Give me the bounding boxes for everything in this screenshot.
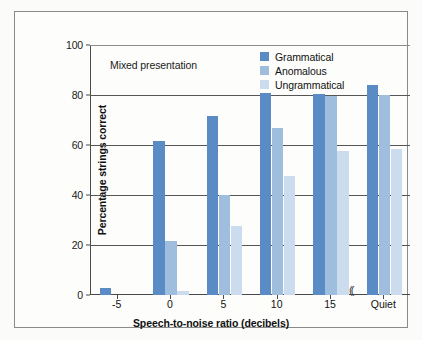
legend-label-ungrammatical: Ungrammatical [275,79,344,91]
legend-item: Ungrammatical [260,78,344,91]
figure-frame: Percentage strings correct Speech-to-noi… [14,11,408,328]
y-tick-label: 60 [72,139,83,151]
legend-label-anomalous: Anomalous [275,65,327,77]
y-tick-label: 80 [72,89,83,101]
y-tick-mark [86,295,90,296]
bar-anomalous-quiet [379,95,391,295]
x-tick-label: Quiet [371,298,396,310]
gridline [90,145,410,146]
y-tick-label: 100 [66,39,83,51]
bar-grammatical-0 [153,141,165,295]
chart-annotation: Mixed presentation [110,59,197,71]
legend-swatch-anomalous [260,66,269,75]
bar-ungrammatical-15 [337,151,349,295]
y-tick-label: 40 [72,189,83,201]
x-tick-label: 0 [167,298,173,310]
x-tick-mark [170,295,171,299]
legend-label-grammatical: Grammatical [275,51,333,63]
y-tick-mark [86,245,90,246]
bar-group [153,45,189,295]
y-tick-label: 20 [72,239,83,251]
x-tick-mark [330,295,331,299]
figure-page: Percentage strings correct Speech-to-noi… [0,0,422,340]
x-tick-mark [383,295,384,299]
bar-grammatical-5 [207,116,219,295]
x-tick-mark [117,295,118,299]
bar-anomalous-15 [325,96,337,295]
bar-ungrammatical-0 [177,291,189,295]
bar-anomalous-5 [219,195,231,295]
x-axis-title: Speech-to-noise ratio (decibels) [15,317,407,329]
gridline [90,195,410,196]
y-tick-mark [86,45,90,46]
gridline [90,245,410,246]
legend-swatch-grammatical [260,52,269,61]
x-tick-mark [277,295,278,299]
x-tick-label: 5 [220,298,226,310]
legend-item: Anomalous [260,64,344,77]
bar-grammatical-10 [260,93,272,296]
bar-group [100,45,136,295]
plot-frame [90,45,410,295]
x-tick-label: 10 [271,298,283,310]
bar-grammatical--5 [100,288,112,296]
y-tick-mark [86,95,90,96]
bar-ungrammatical-5 [231,226,243,295]
bar-group [207,45,243,295]
legend-item: Grammatical [260,50,344,63]
x-tick-label: -5 [112,298,121,310]
x-tick-mark [223,295,224,299]
gridline [90,45,410,46]
gridline [90,95,410,96]
bar-ungrammatical-10 [284,176,296,295]
bar-ungrammatical-quiet [391,149,403,295]
x-tick-label: 15 [324,298,336,310]
bar-grammatical-15 [313,94,325,295]
bar-group [367,45,403,295]
bar-anomalous-0 [165,241,177,295]
bar-grammatical-quiet [367,85,379,295]
y-tick-mark [86,195,90,196]
plot-area: 020406080100 -5051015Quiet(( Mixed prese… [90,45,410,295]
x-axis-break-marker: (( [349,284,352,296]
y-tick-label: 0 [77,289,83,301]
bar-anomalous-10 [272,128,284,296]
y-tick-mark [86,145,90,146]
legend-swatch-ungrammatical [260,80,269,89]
chart-legend: Grammatical Anomalous Ungrammatical [260,50,344,92]
